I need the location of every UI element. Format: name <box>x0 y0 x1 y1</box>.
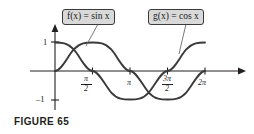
function-label-f[interactable]: f(x) = sin x <box>62 9 115 25</box>
function-label-g[interactable]: g(x) = cos x <box>148 9 204 25</box>
x-tick-label-3pi-over-2-numerator: 3π <box>156 75 178 83</box>
x-tick-label-2pi: 2π <box>198 78 206 87</box>
function-label-g-text: g(x) = cos x <box>153 11 199 21</box>
figure-65: f(x) = sin x g(x) = cos x 1 –1 π 2 π 3π … <box>0 0 254 134</box>
x-tick-label-pi-over-2-numerator: π <box>75 75 97 83</box>
x-tick-label-3pi-over-2: 3π 2 <box>156 75 178 93</box>
x-axis <box>30 68 246 75</box>
function-label-f-text: f(x) = sin x <box>67 11 110 21</box>
y-axis <box>52 24 59 110</box>
y-tick-label-negative-1: –1 <box>36 94 45 104</box>
x-tick-label-pi-over-2: π 2 <box>75 75 97 93</box>
figure-caption: FIGURE 65 <box>14 116 69 127</box>
x-tick-label-pi: π <box>127 78 131 87</box>
x-tick-label-3pi-over-2-denominator: 2 <box>156 85 178 93</box>
trig-graph-canvas <box>0 0 254 134</box>
x-tick-label-pi-over-2-denominator: 2 <box>75 85 97 93</box>
y-tick-label-1: 1 <box>43 37 47 47</box>
g-label-leader-line <box>179 24 186 54</box>
